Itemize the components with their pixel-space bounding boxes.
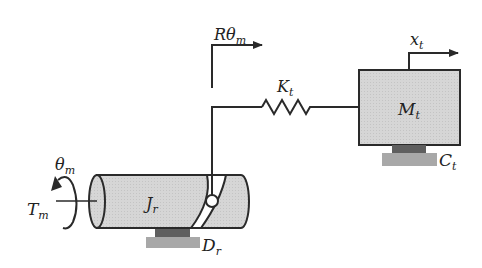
rotor-damper bbox=[146, 228, 200, 248]
pin-displacement-arrow-icon bbox=[212, 45, 262, 88]
rotation-arrow-icon bbox=[58, 177, 77, 228]
pin-displacement-label: Rθm bbox=[213, 25, 246, 47]
spring-stiffness-label: Kt bbox=[276, 77, 294, 99]
mass-displacement-label: xt bbox=[410, 30, 424, 52]
spring-icon bbox=[262, 100, 358, 114]
cylinder-body bbox=[97, 175, 249, 228]
mechanical-system-diagram: Rθm Kt xt Mt Ct Jr Dr Tm θm bbox=[0, 0, 482, 268]
motor-torque-label: Tm bbox=[27, 199, 49, 222]
mass-damping-label: Ct bbox=[439, 150, 457, 173]
mass-damper bbox=[382, 145, 437, 166]
rotor-damper-base bbox=[146, 237, 200, 248]
rotor-cylinder bbox=[56, 175, 249, 228]
mass-displacement-arrow-icon bbox=[409, 53, 458, 70]
follower-pin bbox=[206, 195, 218, 207]
rotor-damper-upper bbox=[155, 228, 190, 237]
mass-damper-upper bbox=[392, 145, 426, 153]
rotor-damping-label: Dr bbox=[201, 235, 222, 258]
mass-damper-base bbox=[382, 153, 437, 166]
motor-angle-label: θm bbox=[55, 155, 75, 177]
